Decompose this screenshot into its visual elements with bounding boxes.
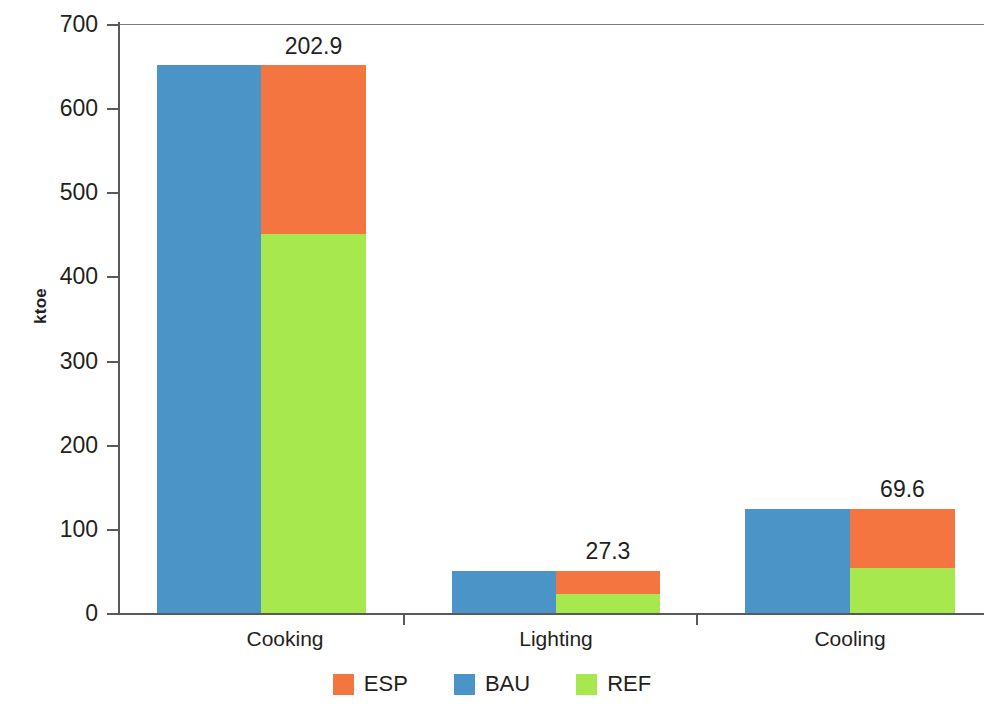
x-tick-separator-2 <box>696 613 698 625</box>
y-tick-300: 300 <box>107 361 118 363</box>
x-axis-line <box>118 613 984 615</box>
legend-label-esp: ESP <box>364 672 408 696</box>
y-tick-label-0: 0 <box>85 600 98 626</box>
bar-cooling-bau <box>745 509 850 613</box>
y-tick-400: 400 <box>107 276 118 278</box>
plot-top-rule <box>118 24 984 25</box>
bar-cooking-stacked <box>261 65 366 613</box>
y-tick-700: 700 <box>107 24 118 26</box>
segment-cooling-esp <box>850 509 955 568</box>
y-tick-600: 600 <box>107 108 118 110</box>
y-tick-label-400: 400 <box>60 263 98 289</box>
legend-swatch-bau-icon <box>454 674 475 695</box>
y-axis-line <box>118 22 120 615</box>
bar-cooking-bau <box>157 65 261 613</box>
x-tick-separator-1 <box>403 613 405 625</box>
y-tick-0: 0 <box>107 613 118 615</box>
legend-label-bau: BAU <box>485 672 530 696</box>
legend-label-ref: REF <box>607 672 651 696</box>
value-label-lighting: 27.3 <box>556 538 660 564</box>
bar-cooling-stacked <box>850 509 955 613</box>
bar-chart: ktoe 700 600 500 400 300 200 100 0 <box>0 0 984 711</box>
y-tick-100: 100 <box>107 529 118 531</box>
value-label-cooling: 69.6 <box>850 476 955 502</box>
bar-lighting-stacked <box>556 571 660 613</box>
plot-area: 700 600 500 400 300 200 100 0 <box>118 24 984 613</box>
bar-lighting-bau <box>452 571 556 613</box>
legend-item-ref[interactable]: REF <box>576 672 651 696</box>
segment-cooking-ref <box>261 234 366 613</box>
legend-item-bau[interactable]: BAU <box>454 672 530 696</box>
segment-lighting-esp <box>556 571 660 594</box>
legend-item-esp[interactable]: ESP <box>333 672 408 696</box>
x-axis-label-cooling: Cooling <box>710 627 984 651</box>
x-axis-label-lighting: Lighting <box>416 627 696 651</box>
legend-swatch-esp-icon <box>333 674 354 695</box>
segment-cooking-esp <box>261 65 366 234</box>
y-tick-label-500: 500 <box>60 179 98 205</box>
x-axis-label-cooking: Cooking <box>145 627 425 651</box>
legend-swatch-ref-icon <box>576 674 597 695</box>
chart-legend: ESP BAU REF <box>0 672 984 696</box>
y-axis-title: ktoe <box>31 271 51 341</box>
segment-cooling-ref <box>850 568 955 613</box>
y-tick-label-200: 200 <box>60 432 98 458</box>
y-tick-label-100: 100 <box>60 516 98 542</box>
y-tick-label-300: 300 <box>60 348 98 374</box>
y-tick-label-600: 600 <box>60 95 98 121</box>
y-tick-label-700: 700 <box>60 11 98 37</box>
segment-lighting-ref <box>556 594 660 613</box>
y-tick-500: 500 <box>107 192 118 194</box>
value-label-cooking: 202.9 <box>261 33 366 59</box>
y-tick-200: 200 <box>107 445 118 447</box>
